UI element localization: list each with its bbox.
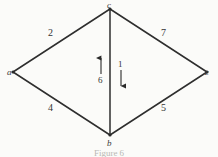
figure-container: a c b z 2 7 4 5 6 1 Figure 6: [0, 0, 218, 157]
vertex-label-a: a: [7, 68, 12, 77]
flow-arrow-label-down: 1: [118, 60, 123, 69]
edge-weight-a-c: 2: [48, 28, 53, 38]
vertex-label-c: c: [107, 1, 111, 10]
edge-a-c: [13, 9, 110, 72]
edge-c-z: [110, 9, 207, 72]
figure-caption: Figure 6: [0, 149, 218, 157]
graph-edges: [13, 9, 207, 135]
vertex-b-dot: [108, 133, 111, 136]
edge-weight-c-z: 7: [161, 28, 166, 38]
vertex-label-b: b: [107, 139, 112, 148]
edge-weight-a-b: 4: [48, 103, 53, 113]
flow-arrow-label-up: 6: [98, 76, 103, 85]
edge-b-z: [110, 72, 207, 135]
edge-a-b: [13, 72, 110, 135]
graph-canvas: [0, 0, 218, 157]
edge-weight-b-z: 5: [161, 103, 166, 113]
vertex-label-z: z: [205, 68, 209, 77]
